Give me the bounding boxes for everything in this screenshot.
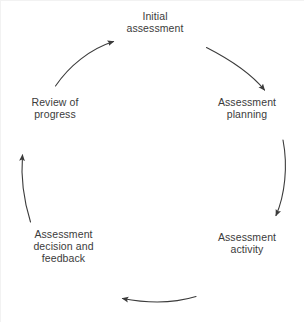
arrow-planning-to-activity xyxy=(276,140,285,216)
stage-label-assessment-decision-and-feedback: Assessment decision and feedback xyxy=(17,228,110,264)
stage-label-assessment-activity: Assessment activity xyxy=(203,231,291,255)
cycle-arrows-group xyxy=(0,0,304,322)
stage-label-assessment-planning: Assessment planning xyxy=(203,96,291,120)
stage-label-review-of-progress: Review of progress xyxy=(12,96,98,120)
arrow-activity-to-decision xyxy=(123,297,197,302)
stage-label-initial-assessment: Initial assessment xyxy=(103,10,207,34)
assessment-cycle-diagram: Initial assessment Assessment planning A… xyxy=(0,0,304,322)
arrow-initial-to-planning xyxy=(207,48,265,91)
arrow-review-to-initial xyxy=(56,42,114,87)
arrow-decision-to-review xyxy=(22,155,30,222)
